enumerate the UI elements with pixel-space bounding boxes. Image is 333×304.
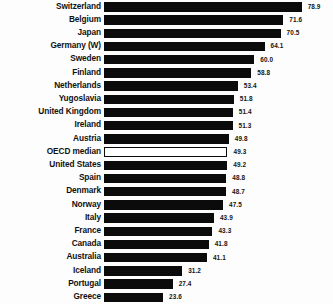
bar-track — [104, 121, 233, 130]
category-label: Greece — [0, 291, 101, 304]
chart-row: Austria49.8 — [0, 133, 333, 146]
chart-row: Portugal27.4 — [0, 278, 333, 291]
chart-row: Finland58.8 — [0, 67, 333, 80]
value-label: 64.1 — [271, 42, 284, 50]
bar-track — [104, 29, 281, 38]
bar-track — [104, 161, 227, 170]
bar-track — [104, 134, 229, 143]
bar — [104, 293, 163, 302]
bar-track — [104, 174, 226, 183]
value-label: 51.4 — [239, 108, 252, 116]
category-label: Iceland — [0, 265, 101, 278]
category-label: Germany (W) — [0, 40, 101, 53]
bar-track — [104, 253, 207, 262]
bar — [104, 213, 214, 222]
bar — [104, 227, 212, 236]
value-label: 27.4 — [179, 280, 192, 288]
bar — [104, 174, 226, 183]
bar-track — [104, 147, 227, 156]
bar-highlight — [104, 147, 227, 156]
bar-track — [104, 2, 302, 11]
category-label: Finland — [0, 67, 101, 80]
bar-track — [104, 55, 254, 64]
category-label: France — [0, 225, 101, 238]
value-label: 31.2 — [188, 267, 201, 275]
bar-track — [104, 108, 233, 117]
bar — [104, 15, 283, 24]
chart-row: France43.3 — [0, 225, 333, 238]
chart-row: United States49.2 — [0, 159, 333, 172]
bar — [104, 240, 209, 249]
category-label: Denmark — [0, 185, 101, 198]
category-label: Netherlands — [0, 80, 101, 93]
value-label: 49.2 — [233, 161, 246, 169]
value-label: 41.1 — [213, 254, 226, 262]
category-label: Italy — [0, 212, 101, 225]
bar — [104, 55, 254, 64]
bar — [104, 68, 251, 77]
value-label: 49.8 — [235, 135, 248, 143]
value-label: 78.9 — [308, 3, 321, 11]
bar — [104, 134, 229, 143]
value-label: 58.8 — [257, 69, 270, 77]
category-label: Belgium — [0, 14, 101, 27]
chart-row: Australia41.1 — [0, 251, 333, 264]
category-label: Norway — [0, 199, 101, 212]
chart-row: Germany (W)64.1 — [0, 40, 333, 53]
category-label: Australia — [0, 251, 101, 264]
chart-row: Japan70.5 — [0, 27, 333, 40]
bar — [104, 279, 173, 288]
value-label: 23.6 — [169, 293, 182, 301]
category-label: Ireland — [0, 119, 101, 132]
bar — [104, 200, 223, 209]
chart-row: Yugoslavia51.8 — [0, 93, 333, 106]
chart-row: Sweden60.0 — [0, 53, 333, 66]
category-label: United Kingdom — [0, 106, 101, 119]
category-label: Japan — [0, 27, 101, 40]
bar — [104, 161, 227, 170]
value-label: 70.5 — [287, 29, 300, 37]
chart-row: Italy43.9 — [0, 212, 333, 225]
value-label: 71.6 — [289, 16, 302, 24]
category-label: Spain — [0, 172, 101, 185]
bar — [104, 121, 233, 130]
chart-row: Canada41.8 — [0, 238, 333, 251]
category-label: Portugal — [0, 278, 101, 291]
category-label: Austria — [0, 133, 101, 146]
value-label: 51.8 — [240, 95, 253, 103]
value-label: 48.7 — [232, 188, 245, 196]
category-label: Yugoslavia — [0, 93, 101, 106]
bar-track — [104, 293, 163, 302]
chart-row: Norway47.5 — [0, 199, 333, 212]
chart-row: Switzerland78.9 — [0, 1, 333, 14]
value-label: 43.9 — [220, 214, 233, 222]
value-label: 41.8 — [215, 240, 228, 248]
chart-row: Spain48.8 — [0, 172, 333, 185]
chart-row: Ireland51.3 — [0, 119, 333, 132]
bar-track — [104, 68, 251, 77]
value-label: 51.3 — [239, 122, 252, 130]
bar — [104, 42, 265, 51]
value-label: 48.8 — [232, 174, 245, 182]
bar-track — [104, 227, 212, 236]
bar — [104, 266, 182, 275]
bar — [104, 29, 281, 38]
bar-track — [104, 279, 173, 288]
bar-track — [104, 240, 209, 249]
chart-row: Iceland31.2 — [0, 265, 333, 278]
category-label: Canada — [0, 238, 101, 251]
chart-row: Greece23.6 — [0, 291, 333, 304]
category-label: United States — [0, 159, 101, 172]
category-label: OECD median — [0, 146, 101, 159]
category-label: Switzerland — [0, 1, 101, 14]
value-label: 47.5 — [229, 201, 242, 209]
bar — [104, 108, 233, 117]
bar — [104, 95, 234, 104]
bar-track — [104, 213, 214, 222]
chart-row: United Kingdom51.4 — [0, 106, 333, 119]
bar — [104, 253, 207, 262]
bar — [104, 2, 302, 11]
bar-track — [104, 15, 283, 24]
value-label: 43.3 — [218, 227, 231, 235]
